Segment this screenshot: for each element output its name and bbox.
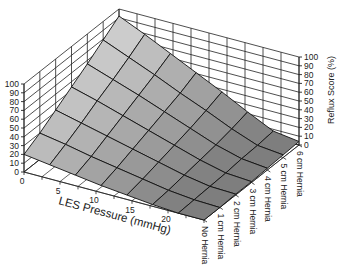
hernia-tick-label: 3 cm Hernia: [248, 189, 258, 235]
z-tick-label-right: 70: [304, 78, 314, 88]
z-tick-label-left: 90: [10, 88, 20, 98]
z-tick-label-left: 30: [10, 141, 20, 151]
hernia-tick-label: 2 cm Hernia: [232, 201, 242, 247]
hernia-tick: [283, 158, 286, 160]
hernia-tick: [220, 208, 223, 210]
z-tick-label-right: 90: [304, 61, 314, 71]
right-z-axis: 0102030405060708090100: [299, 52, 318, 150]
z-tick-label-right: 50: [304, 96, 314, 106]
z-tick-label-left: 0: [14, 167, 19, 177]
z-tick-label-left: 60: [10, 114, 20, 124]
z-tick-label-right: 0: [304, 140, 309, 150]
z-tick-label-right: 60: [304, 87, 314, 97]
hernia-tick: [204, 220, 207, 222]
z-tick-label-left: 80: [10, 97, 20, 107]
hernia-tick-label: 5 cm Hernia: [279, 164, 289, 210]
left-z-axis: 0102030405060708090100: [5, 79, 24, 177]
hernia-tick-label: 6 cm Hernia: [295, 151, 305, 197]
hernia-tick: [236, 195, 239, 197]
z-axis-title: Reflux Score (%): [326, 56, 336, 124]
z-tick-label-left: 10: [10, 158, 20, 168]
hernia-tick-label: 1 cm Hernia: [216, 214, 226, 260]
z-tick-label-left: 20: [10, 149, 20, 159]
z-tick-label-right: 100: [304, 52, 318, 62]
hernia-tick: [267, 170, 270, 172]
hernia-tick-label: No Hernia: [200, 226, 210, 265]
z-tick-label-left: 70: [10, 105, 20, 115]
z-tick-label-right: 40: [304, 105, 314, 115]
z-tick-label-right: 80: [304, 70, 314, 80]
z-tick-label-left: 100: [5, 79, 19, 89]
z-tick-label-left: 50: [10, 123, 20, 133]
hernia-tick-label: 4 cm Hernia: [263, 176, 273, 222]
z-tick-label-left: 40: [10, 132, 20, 142]
hernia-tick: [252, 183, 255, 185]
z-tick-label-right: 20: [304, 122, 314, 132]
reflux-surface-chart: 0102030405060708090100 01020304050607080…: [0, 0, 338, 275]
les-tick-label: 0: [20, 176, 25, 186]
z-tick-label-right: 30: [304, 114, 314, 124]
z-tick-label-right: 10: [304, 131, 314, 141]
